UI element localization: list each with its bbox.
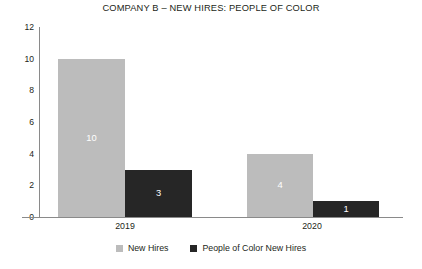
x-axis-line (22, 217, 403, 218)
bar-value-label: 4 (247, 179, 313, 190)
plot-area: 10341 (39, 27, 403, 217)
y-tick-label-6: 6 (6, 117, 34, 127)
category-label-2020: 2020 (302, 221, 322, 231)
chart-title: COMPANY B – NEW HIRES: PEOPLE OF COLOR (0, 3, 422, 13)
bar-value-label: 3 (125, 187, 192, 198)
y-tick-label-8: 8 (6, 85, 34, 95)
bar-2020-series-2[interactable]: 1 (313, 201, 379, 217)
y-tick-label-2: 2 (6, 180, 34, 190)
y-tick-label-12: 12 (6, 22, 34, 32)
legend-label: People of Color New Hires (202, 243, 306, 253)
legend-label: New Hires (128, 243, 169, 253)
legend-swatch-icon (116, 245, 123, 252)
legend-item-2[interactable]: People of Color New Hires (190, 243, 306, 253)
bar-2019-series-2[interactable]: 3 (125, 170, 192, 218)
category-label-2019: 2019 (115, 221, 135, 231)
bar-2019-series-1[interactable]: 10 (58, 59, 125, 217)
legend-item-1[interactable]: New Hires (116, 243, 169, 253)
y-axis-tick-labels: 024681012 (0, 0, 34, 269)
y-tick-label-10: 10 (6, 54, 34, 64)
bar-value-label: 1 (313, 203, 379, 214)
bar-value-label: 10 (58, 132, 125, 143)
legend-swatch-icon (190, 245, 197, 252)
y-tick-label-4: 4 (6, 149, 34, 159)
chart-legend: New HiresPeople of Color New Hires (0, 243, 422, 253)
bar-2020-series-1[interactable]: 4 (247, 154, 313, 217)
bar-chart: COMPANY B – NEW HIRES: PEOPLE OF COLOR 0… (0, 0, 422, 269)
